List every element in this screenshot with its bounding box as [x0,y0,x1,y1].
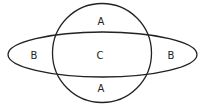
label-b-left: B [31,50,38,61]
label-a-bottom: A [98,83,105,94]
label-b-right: B [168,50,175,61]
label-a-top: A [98,16,105,27]
label-c-center: C [97,50,104,61]
venn-diagram: A A B B C [0,0,206,106]
diagram-canvas: A A B B C [0,0,206,106]
